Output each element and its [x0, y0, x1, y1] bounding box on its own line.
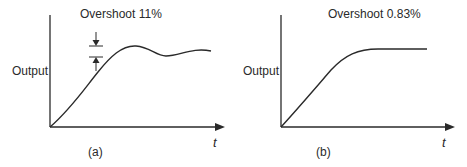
x-axis-arrow-icon [215, 123, 225, 131]
x-axis-arrow-icon [445, 123, 455, 131]
chart-a-caption: (a) [88, 145, 103, 159]
chart-panel-a: Overshoot 11% Output t (a) [0, 0, 233, 167]
chart-a-title: Overshoot 11% [80, 7, 162, 21]
response-curve [281, 49, 427, 127]
response-curve [50, 46, 211, 127]
arrow-down-icon [93, 40, 100, 46]
arrow-up-icon [93, 57, 100, 63]
chart-a-x-label: t [213, 135, 217, 150]
chart-b-x-label: t [442, 135, 446, 150]
chart-b-y-label: Output [243, 64, 279, 78]
chart-a-plot [0, 0, 233, 167]
chart-panel-b: Overshoot 0.83% Output t (b) [233, 0, 467, 167]
chart-a-y-label: Output [12, 64, 48, 78]
chart-b-plot [233, 0, 467, 167]
chart-b-caption: (b) [316, 145, 331, 159]
chart-b-title: Overshoot 0.83% [328, 7, 421, 21]
